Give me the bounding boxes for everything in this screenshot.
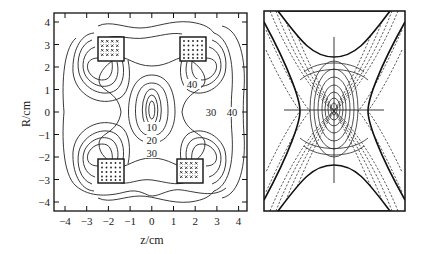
- contour-label-40: 40: [187, 79, 198, 90]
- left-contour-plot: −4 −3 −2 −1 0 1 2 3 4 4 3 2 1 0 −1 −2 −3…: [19, 13, 247, 247]
- contour-label-30-right: 30: [206, 107, 217, 118]
- y-tick-labels: 4 3 2 1 0 −1 −2 −3 −4: [38, 16, 50, 208]
- x-tick-label: 2: [192, 215, 198, 227]
- contour-label-40-right: 40: [227, 107, 238, 118]
- figure-canvas: −4 −3 −2 −1 0 1 2 3 4 4 3 2 1 0 −1 −2 −3…: [0, 0, 424, 254]
- coil-upper-left: [98, 37, 124, 61]
- y-axis-title: R/cm: [19, 100, 33, 127]
- coil-lower-right: [177, 159, 203, 183]
- y-tick-label: 3: [45, 39, 51, 51]
- x-tick-label: −2: [103, 215, 115, 227]
- x-tick-label: 0: [149, 215, 155, 227]
- coil-upper-right: [180, 37, 206, 61]
- x-tick-labels: −4 −3 −2 −1 0 1 2 3 4: [59, 215, 242, 227]
- contour-labels: 10 20 30 40 30 40: [143, 79, 241, 159]
- left-electrode-boundary: [264, 22, 300, 200]
- contour-label-20: 20: [147, 135, 158, 146]
- x-tick-label: −1: [124, 215, 136, 227]
- y-tick-label: 1: [45, 84, 51, 96]
- y-tick-label: −3: [38, 174, 50, 186]
- y-tick-label: −1: [38, 129, 50, 141]
- y-tick-label: −4: [38, 196, 50, 208]
- y-tick-label: 4: [45, 16, 51, 28]
- contour-label-30: 30: [147, 148, 158, 159]
- coil-lower-left: [98, 159, 124, 183]
- contour-label-10: 10: [147, 122, 158, 133]
- x-tick-label: 4: [236, 215, 242, 227]
- x-axis-title: z/cm: [140, 233, 164, 247]
- x-tick-label: 3: [214, 215, 220, 227]
- y-tick-label: −2: [38, 151, 50, 163]
- x-tick-label: 1: [171, 215, 177, 227]
- right-field-diagram: [264, 11, 405, 211]
- y-tick-label: 0: [45, 106, 51, 118]
- x-tick-label: −4: [59, 215, 71, 227]
- y-tick-label: 2: [45, 61, 51, 73]
- right-electrode-boundary: [368, 22, 405, 200]
- x-tick-label: −3: [81, 215, 93, 227]
